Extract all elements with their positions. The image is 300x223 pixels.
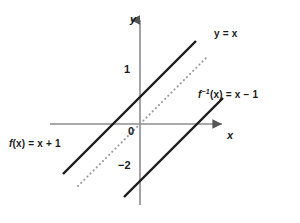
function-label-expression: (x) = x + 1 [13, 138, 61, 149]
inverse-function-line [124, 98, 223, 197]
identity-line [78, 57, 207, 186]
y-axis-label: y [130, 14, 136, 25]
tick-label-1: 1 [124, 64, 130, 75]
function-line [63, 41, 196, 174]
plot-canvas [0, 0, 300, 223]
inverse-label-expression: (x) = x − 1 [210, 89, 258, 100]
function-label: f(x) = x + 1 [9, 139, 61, 149]
x-axis-label: x [227, 130, 233, 141]
function-graph-figure: y x 1 −2 0 y = x f(x) = x + 1 f−1(x) = x… [0, 0, 300, 223]
inverse-function-label: f−1(x) = x − 1 [198, 90, 258, 100]
identity-line-label: y = x [214, 29, 238, 39]
origin-label: 0 [128, 126, 134, 137]
tick-label-minus-2: −2 [118, 160, 131, 171]
inverse-label-exponent: −1 [202, 88, 210, 95]
